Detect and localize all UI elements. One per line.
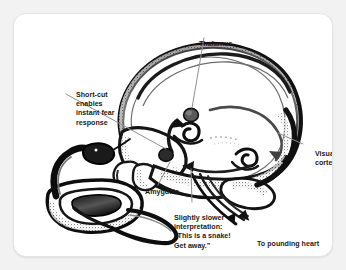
label-short-cut: Short-cut enables instant fear response — [76, 91, 114, 128]
diagram-canvas — [14, 14, 332, 256]
figure-root: Thalamus Short-cut enables instant fear … — [0, 0, 346, 270]
label-slower-interpretation: Slightly slower interpretation: “This is… — [174, 214, 231, 251]
amygdala-nucleus — [159, 149, 173, 162]
snake-head — [83, 143, 114, 164]
illustration-svg — [14, 14, 332, 256]
label-visual-cortex: Visual cortex — [315, 150, 333, 168]
thalamus-highlight — [186, 111, 192, 116]
figure-card: Thalamus Short-cut enables instant fear … — [13, 13, 333, 257]
label-thalamus: Thalamus — [199, 40, 232, 49]
label-amygdala: Amygdala — [145, 188, 179, 197]
label-pounding-heart: To pounding heart — [257, 240, 319, 249]
snake-eye — [95, 149, 98, 152]
thalamus-nucleus — [184, 108, 199, 121]
